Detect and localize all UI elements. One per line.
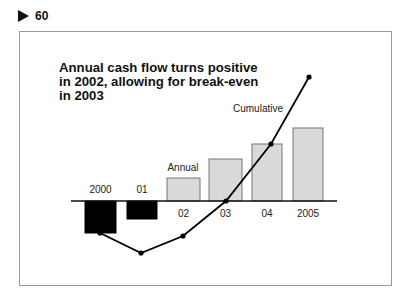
chart-plot: 2000010203042005AnnualCumulative [0, 0, 406, 303]
category-label: 04 [261, 208, 273, 219]
bar-annual-04 [252, 144, 282, 201]
cumulative-point [97, 230, 102, 235]
cumulative-point [268, 141, 273, 146]
bar-annual-2000 [85, 201, 116, 233]
bar-annual-03 [209, 159, 242, 201]
cumulative-series-label: Cumulative [233, 103, 283, 114]
bar-annual-02 [167, 178, 200, 201]
category-label: 03 [220, 208, 232, 219]
cumulative-point [306, 74, 311, 79]
annual-series-label: Annual [167, 162, 198, 173]
category-label: 02 [178, 208, 190, 219]
bar-annual-01 [127, 201, 157, 219]
category-label: 2005 [297, 208, 320, 219]
category-label: 2000 [89, 184, 112, 195]
bar-annual-2005 [293, 128, 323, 201]
cumulative-point [138, 250, 143, 255]
cumulative-point [180, 233, 185, 238]
category-label: 01 [136, 184, 148, 195]
cumulative-point [223, 198, 228, 203]
